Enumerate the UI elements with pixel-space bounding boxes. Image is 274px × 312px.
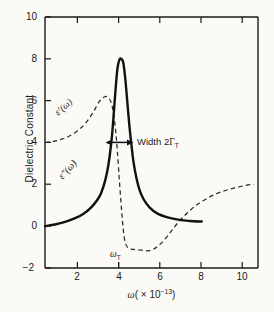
plot-canvas: [0, 0, 274, 312]
omega-t-symbol: ω: [110, 249, 117, 259]
x-axis-exponent: −13: [161, 288, 173, 295]
y-tick-label-neg2: −2: [8, 263, 34, 273]
y-tick-label-8: 8: [11, 54, 37, 64]
y-tick-label-10: 10: [11, 12, 37, 22]
x-tick-label-4: 4: [107, 272, 131, 282]
x-axis-omega-symbol: ω: [128, 289, 135, 300]
width-arrow-left-head: [106, 139, 113, 145]
dielectric-constant-chart: Dielectric Constant 10 8 6 4 2 0 −2 2 4 …: [0, 0, 274, 312]
omega-t-subscript: T: [117, 254, 121, 261]
y-tick-label-6: 6: [11, 96, 37, 106]
x-axis-factor-open: ( × 10: [135, 289, 161, 300]
x-tick-label-6: 6: [148, 272, 172, 282]
gamma-subscript: T: [175, 142, 179, 149]
figure-page: Dielectric Constant 10 8 6 4 2 0 −2 2 4 …: [0, 0, 274, 312]
y-tick-label-2: 2: [11, 179, 37, 189]
width-annotation: Width 2ΓT: [137, 136, 179, 149]
width-annotation-text: Width 2: [137, 136, 169, 147]
omega-t-label: ωT: [110, 248, 121, 261]
curve-epsilon-real: [45, 96, 254, 251]
y-tick-label-0: 0: [11, 221, 37, 231]
x-tick-label-8: 8: [189, 272, 213, 282]
x-axis-title: ω( × 10−13): [45, 288, 258, 300]
x-tick-label-10: 10: [230, 272, 254, 282]
x-axis-factor-close: ): [172, 289, 175, 300]
y-tick-label-4: 4: [11, 137, 37, 147]
x-tick-label-2: 2: [65, 272, 89, 282]
